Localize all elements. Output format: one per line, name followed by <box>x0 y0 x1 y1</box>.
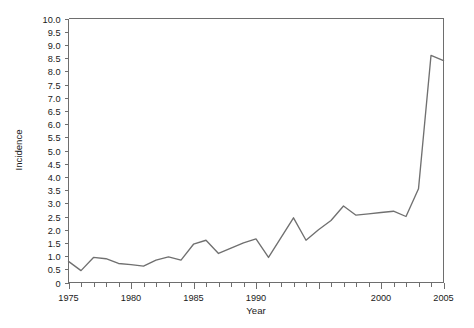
plot-frame <box>69 19 444 283</box>
y-tick-label: 8.5 <box>48 54 61 64</box>
y-tick-label: 3.5 <box>48 186 61 196</box>
y-tick-label: 5.5 <box>48 133 61 143</box>
y-tick-label: 2.0 <box>48 226 61 236</box>
x-axis: 197519801985199020002005 <box>58 283 453 303</box>
y-tick-label: 5.0 <box>48 147 61 157</box>
y-tick-label: 7.5 <box>48 81 61 91</box>
y-tick-label: 3.0 <box>48 199 61 209</box>
y-tick-label: 7.0 <box>48 94 61 104</box>
y-axis: 00.51.01.52.02.53.03.54.04.55.05.56.06.5… <box>43 15 69 289</box>
y-tick-label: 4.0 <box>48 173 61 183</box>
y-tick-label: 6.0 <box>48 120 61 130</box>
x-tick-label: 2000 <box>371 293 391 303</box>
x-tick-label: 1975 <box>58 293 78 303</box>
y-tick-label: 0 <box>55 279 60 289</box>
x-tick-label: 1980 <box>121 293 141 303</box>
y-tick-label: 2.5 <box>48 213 61 223</box>
y-tick-label: 1.5 <box>48 239 61 249</box>
y-tick-label: 0.5 <box>48 265 61 275</box>
y-tick-label: 9.0 <box>48 41 61 51</box>
chart-figure: 00.51.01.52.02.53.03.54.04.55.05.56.06.5… <box>0 0 474 328</box>
y-tick-label: 6.5 <box>48 107 61 117</box>
x-axis-title: Year <box>246 305 266 316</box>
y-tick-label: 10.0 <box>43 15 61 25</box>
y-tick-label: 9.5 <box>48 28 61 38</box>
y-axis-title: Incidence <box>13 129 24 170</box>
x-tick-label: 2005 <box>433 293 453 303</box>
incidence-line-chart: 00.51.01.52.02.53.03.54.04.55.05.56.06.5… <box>0 0 474 328</box>
x-tick-label: 1985 <box>183 293 203 303</box>
y-tick-label: 8.0 <box>48 67 61 77</box>
y-tick-label: 1.0 <box>48 252 61 262</box>
data-series-group <box>69 55 444 270</box>
x-tick-label: 1990 <box>246 293 266 303</box>
incidence-series-line <box>69 55 444 270</box>
y-tick-label: 4.5 <box>48 160 61 170</box>
